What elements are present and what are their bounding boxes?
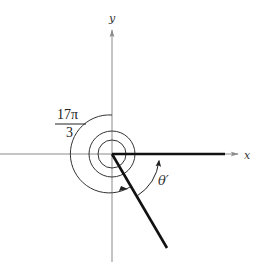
y-axis-label: y [108,12,116,25]
angle-numerator: 17π [57,107,78,122]
terminal-side-ray [112,154,167,248]
x-axis-label: x [244,149,251,162]
reference-angle-label: θ′ [158,173,169,188]
reference-angle-arc [137,161,159,196]
angle-fraction-label: 17π 3 [55,107,86,140]
reference-angle-diagram: x y θ′ 17π 3 [0,0,259,272]
angle-denominator: 3 [66,125,73,140]
